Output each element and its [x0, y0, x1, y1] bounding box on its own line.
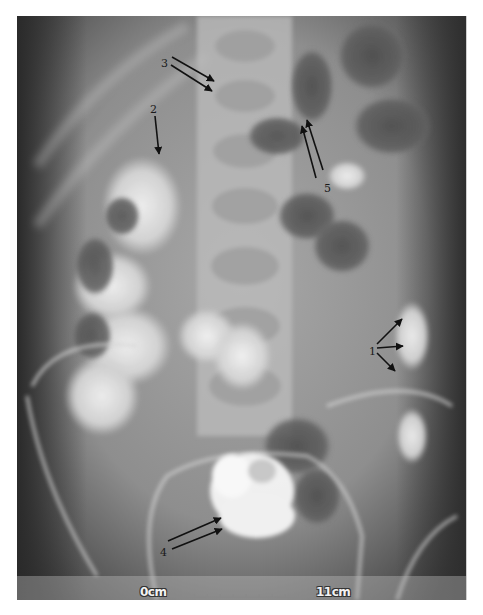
xray-image: 0cm 11cm: [17, 16, 467, 600]
radiograph-anatomy: [17, 16, 466, 600]
scale-start-label: 0cm: [140, 585, 166, 599]
scale-end-label: 11cm: [316, 585, 350, 599]
